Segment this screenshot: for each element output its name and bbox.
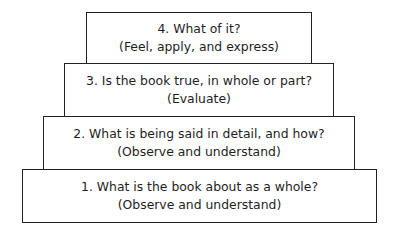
step-3-box: 3. Is the book true, in whole or part? (… <box>64 63 334 117</box>
step-3-action: (Evaluate) <box>167 90 231 108</box>
step-4-question: 4. What of it? <box>157 20 240 38</box>
step-4-action: (Feel, apply, and express) <box>119 38 279 56</box>
step-3-question: 3. Is the book true, in whole or part? <box>86 72 312 90</box>
step-1-action: (Observe and understand) <box>118 196 282 214</box>
step-1-box: 1. What is the book about as a whole? (O… <box>22 169 377 223</box>
step-2-action: (Observe and understand) <box>117 143 281 161</box>
step-2-box: 2. What is being said in detail, and how… <box>43 116 355 170</box>
step-2-question: 2. What is being said in detail, and how… <box>73 125 324 143</box>
step-1-question: 1. What is the book about as a whole? <box>81 178 318 196</box>
step-4-box: 4. What of it? (Feel, apply, and express… <box>86 12 312 64</box>
